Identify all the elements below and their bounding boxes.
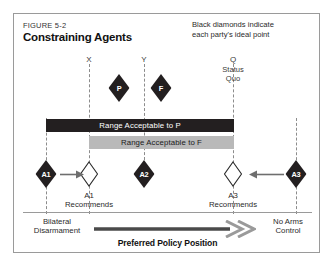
axis-label-left-line-2: Disarmament [26,226,88,235]
recommendation-label-a1: A1 Recommends [65,191,113,210]
nudge-arrow-a1-right [60,170,84,179]
policy-axis-arrow-icon [94,220,256,238]
ideal-point-f: F [151,74,172,102]
axis-label-left: Bilateral Disarmament [26,217,88,235]
plot-area: X Y Q Status Quo P F Range Acceptable to… [14,14,321,254]
axis-label-right: No Arms Control [260,217,316,235]
nudge-arrow-a3-left [249,170,284,179]
axis-label-left-line-1: Bilateral [26,217,88,226]
ideal-point-p: P [109,74,130,102]
recommendation-label-a3-line-1: A3 [209,191,257,200]
axis-label-right-line-2: Control [260,226,316,235]
recommendation-label-a1-line-1: A1 [65,191,113,200]
ideal-point-a3: A3 [286,160,307,188]
tick-label-y: Y [141,55,146,64]
ideal-point-a2: A2 [134,160,155,188]
axis-caption: Preferred Policy Position [14,238,321,248]
range-bar-f: Range Acceptable to F [89,136,234,149]
recommendation-diamond-a3 [224,161,243,187]
tick-sublabel-status-quo: Status Quo [222,66,244,83]
figure-frame: FIGURE 5-2 Constraining Agents Black dia… [13,13,320,253]
axis-divider [23,212,312,213]
ideal-point-a1: A1 [36,160,57,188]
status-quo-line-2: Quo [222,75,244,84]
recommendation-label-a1-line-2: Recommends [65,200,113,209]
axis-label-right-line-1: No Arms [260,217,316,226]
recommendation-label-a3-line-2: Recommends [209,200,257,209]
range-bar-f-label: Range Acceptable to F [121,138,202,147]
tick-label-q: Q [230,55,236,64]
range-bar-p-label: Range Acceptable to P [99,121,180,130]
recommendation-label-a3: A3 Recommends [209,191,257,210]
tick-label-x: X [86,55,91,64]
range-bar-p: Range Acceptable to P [46,119,234,132]
